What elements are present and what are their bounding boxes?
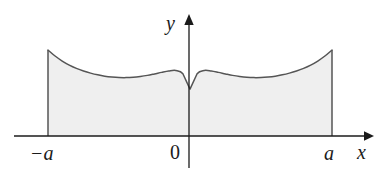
origin-label: 0: [170, 142, 180, 162]
y-axis-label: y: [166, 13, 175, 33]
x-tick-label-negative-a: −a: [30, 143, 54, 163]
arrow-right-icon: [364, 131, 374, 140]
figure-container: y x −a 0 a: [0, 0, 381, 179]
arrow-up-icon: [184, 14, 193, 25]
shaded-area-region: [48, 50, 332, 136]
x-tick-label-positive-a: a: [324, 143, 334, 163]
x-axis-label: x: [357, 142, 366, 162]
